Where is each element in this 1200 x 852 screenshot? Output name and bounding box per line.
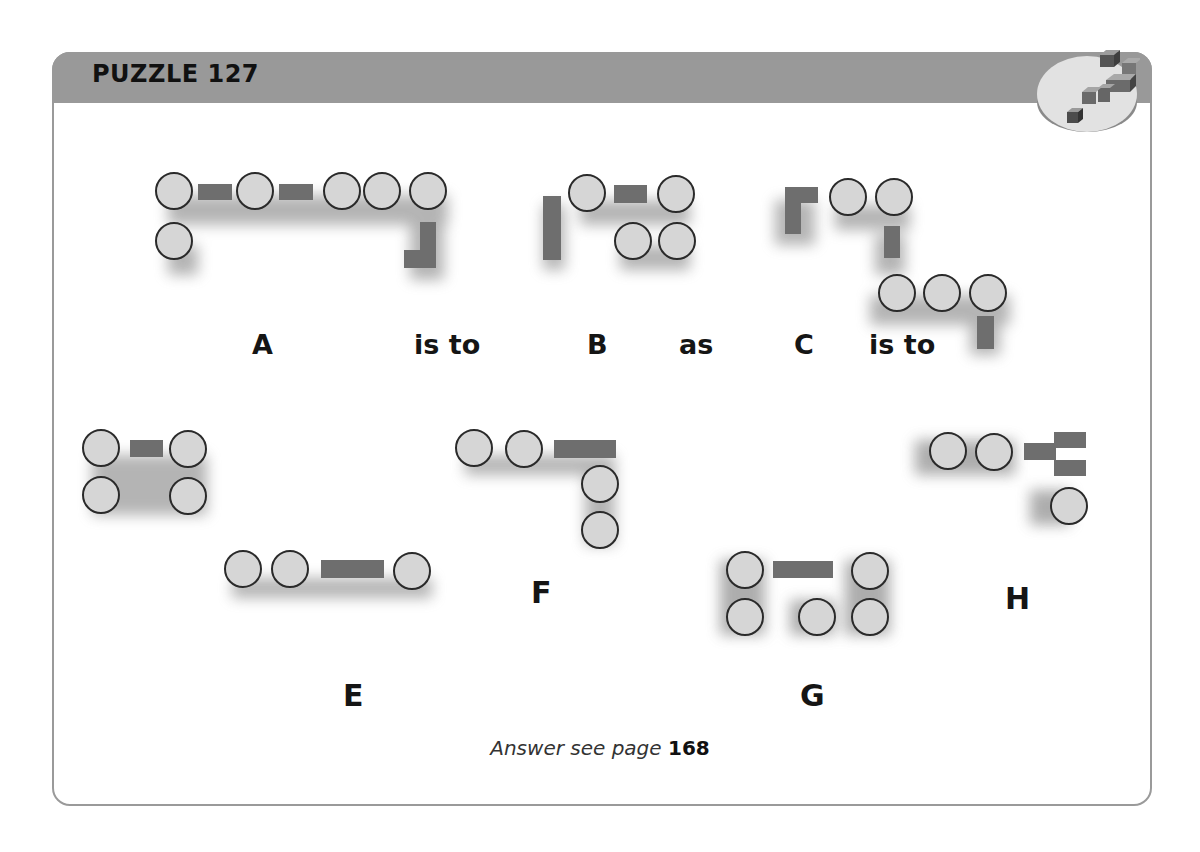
figure-g [720,552,890,635]
bar [279,184,313,200]
label-b: B [587,331,608,358]
option-label-f: F [531,578,552,608]
bar [1054,432,1086,448]
connector-as: as [679,331,713,358]
bar [543,196,561,260]
answer-page-number: 168 [668,736,710,760]
bar [614,185,647,203]
connector-is-to-1: is to [414,331,480,358]
bar [785,187,818,203]
bar [1024,443,1056,460]
answer-reference: Answer see page 168 [0,736,1200,760]
label-a: A [252,331,273,358]
figure-a [156,173,448,280]
bar [773,561,833,578]
option-label-g: G [800,681,825,711]
figure-e [83,430,432,598]
bar [554,440,616,458]
bar [977,316,994,349]
bar [321,560,384,578]
bar [404,250,436,268]
bar [1054,460,1086,476]
option-label-h: H [1005,584,1030,614]
bar [884,226,900,258]
bar [130,440,163,457]
answer-text: Answer see page [490,736,661,760]
figure-b [543,175,695,270]
bar [198,184,232,200]
figure-h [915,432,1087,525]
figure-f [456,430,618,548]
puzzle-figures [0,0,1200,852]
label-c: C [794,331,814,358]
connector-is-to-2: is to [869,331,935,358]
option-label-e: E [343,681,364,711]
